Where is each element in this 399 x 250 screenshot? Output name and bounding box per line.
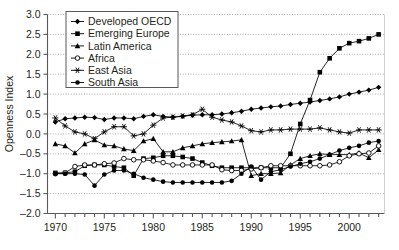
x-tick-label: 1980: [142, 221, 166, 233]
marker-circle-filled: [200, 180, 205, 185]
marker-square: [367, 36, 372, 41]
marker-star: [287, 126, 293, 131]
marker-circle-filled: [53, 171, 58, 176]
marker-circle-open: [82, 163, 87, 168]
marker-square: [171, 153, 176, 158]
marker-diamond: [200, 112, 205, 117]
marker-circle-open: [318, 163, 323, 168]
marker-circle-open: [269, 163, 274, 168]
marker-diamond: [288, 102, 293, 107]
marker-square: [376, 32, 381, 37]
marker-circle-filled: [288, 164, 293, 169]
marker-circle-filled: [298, 161, 303, 166]
marker-diamond: [366, 87, 371, 92]
y-axis-ticks: –2.0–1.5–1.0–0.50.00.51.01.52.02.53.0: [20, 8, 47, 219]
y-tick-label: 1.5: [26, 68, 41, 80]
marker-star: [366, 127, 372, 132]
marker-circle-filled: [92, 183, 97, 188]
marker-star: [278, 127, 284, 132]
marker-diamond: [102, 117, 107, 122]
marker-triangle: [102, 142, 108, 147]
x-axis-ticks: 1970197519801985199019952000: [44, 214, 379, 233]
marker-diamond: [268, 104, 273, 109]
marker-circle-filled: [327, 152, 332, 157]
marker-circle-filled: [151, 177, 156, 182]
marker-diamond: [131, 116, 136, 121]
y-axis-title: Openness Index: [3, 75, 15, 152]
marker-diamond: [258, 105, 263, 110]
marker-star: [376, 127, 382, 132]
series-line: [55, 87, 378, 122]
marker-circle-filled: [131, 171, 136, 176]
marker-circle-filled: [220, 180, 225, 185]
marker-square: [180, 155, 185, 160]
marker-circle-open: [367, 151, 372, 156]
marker-circle-open: [73, 164, 78, 169]
series-line: [55, 146, 378, 174]
marker-diamond: [347, 91, 352, 96]
marker-square: [75, 31, 80, 36]
marker-triangle: [151, 136, 157, 141]
marker-square: [337, 46, 342, 51]
marker-square: [288, 152, 293, 157]
marker-square: [347, 41, 352, 46]
marker-circle-open: [92, 163, 97, 168]
y-tick-label: 1.0: [26, 88, 41, 100]
marker-circle-open: [220, 167, 225, 172]
marker-circle-filled: [73, 171, 78, 176]
marker-circle-filled: [180, 180, 185, 185]
marker-diamond: [298, 101, 303, 106]
marker-circle-open: [200, 163, 205, 168]
marker-circle-open: [75, 56, 80, 61]
marker-circle-open: [278, 163, 283, 168]
marker-star: [219, 117, 225, 122]
marker-star: [72, 129, 78, 134]
x-tick-label: 1995: [289, 221, 313, 233]
x-tick-label: 2000: [338, 221, 362, 233]
marker-star: [268, 127, 274, 132]
marker-circle-filled: [239, 171, 244, 176]
marker-diamond: [278, 103, 283, 108]
marker-circle-filled: [112, 168, 117, 173]
marker-circle-filled: [259, 177, 264, 182]
marker-diamond: [219, 111, 224, 116]
marker-triangle: [53, 141, 59, 146]
marker-circle-open: [161, 160, 166, 165]
marker-star: [327, 127, 333, 132]
marker-circle-open: [102, 161, 107, 166]
legend-label: Latin America: [88, 40, 152, 52]
marker-circle-open: [376, 144, 381, 149]
y-tick-label: 0.5: [26, 108, 41, 120]
marker-square: [298, 122, 303, 127]
x-tick-label: 1990: [240, 221, 264, 233]
marker-diamond: [111, 115, 116, 120]
marker-triangle: [239, 137, 245, 142]
chart-canvas: –2.0–1.5–1.0–0.50.00.51.01.52.02.53.0197…: [0, 0, 399, 250]
marker-triangle: [317, 151, 323, 156]
marker-star: [346, 130, 352, 135]
marker-diamond: [376, 85, 381, 90]
y-tick-label: –1.5: [20, 187, 41, 199]
marker-circle-filled: [161, 179, 166, 184]
marker-circle-filled: [63, 171, 68, 176]
series-line: [55, 109, 378, 138]
legend-label: South Asia: [88, 76, 138, 88]
marker-diamond: [72, 115, 77, 120]
legend-label: Emerging Europe: [88, 27, 170, 39]
marker-diamond: [337, 94, 342, 99]
marker-diamond: [151, 112, 156, 117]
legend-label: Developed OECD: [88, 15, 172, 27]
legend-label: East Asia: [88, 64, 132, 76]
marker-circle-filled: [171, 180, 176, 185]
marker-circle-filled: [141, 175, 146, 180]
series-east-asia: [52, 107, 381, 142]
legend: Developed OECDEmerging EuropeLatin Ameri…: [66, 12, 178, 89]
marker-circle-open: [131, 157, 136, 162]
marker-circle-filled: [318, 156, 323, 161]
y-tick-label: 2.0: [26, 48, 41, 60]
marker-diamond: [327, 96, 332, 101]
marker-circle-open: [259, 165, 264, 170]
marker-circle-open: [229, 168, 234, 173]
marker-circle-filled: [249, 164, 254, 169]
marker-star: [229, 119, 235, 124]
